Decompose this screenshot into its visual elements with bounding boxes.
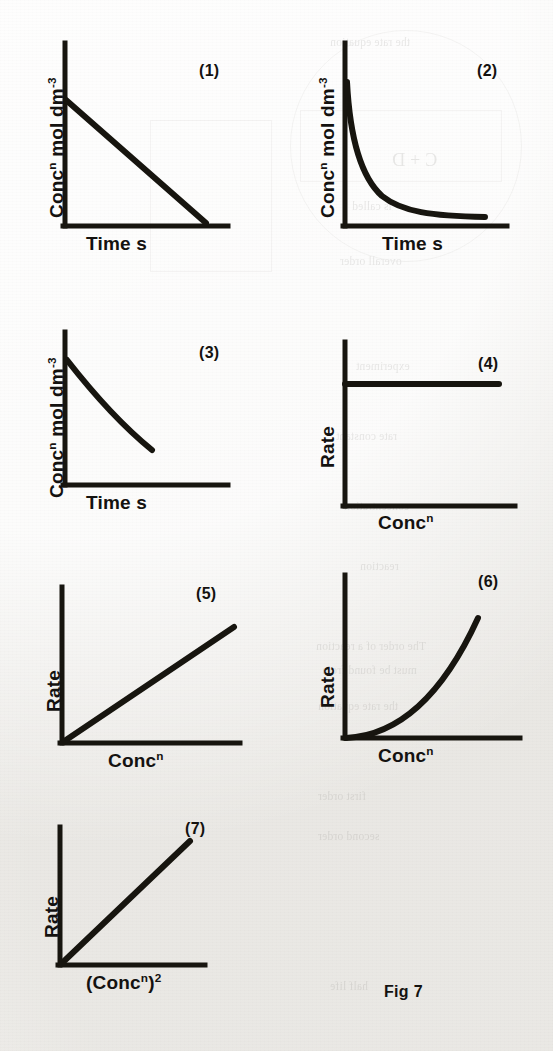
y-axis-label-units-sup: -3 bbox=[316, 77, 329, 88]
y-axis-label-text: Conc bbox=[317, 170, 338, 218]
series-line-3 bbox=[67, 360, 152, 450]
x-axis-label-2: Time s bbox=[382, 233, 443, 255]
x-axis-label-6: Concn bbox=[378, 745, 434, 767]
panel-tag-4: (4) bbox=[478, 355, 498, 373]
x-axis-label-text: Conc bbox=[108, 750, 156, 771]
series-line-1 bbox=[66, 100, 206, 223]
y-axis-label-text: Conc bbox=[46, 170, 67, 218]
x-axis-label-pow: 2 bbox=[155, 971, 162, 984]
y-axis-label-sup: n bbox=[45, 442, 58, 449]
y-axis-label-text: Conc bbox=[46, 450, 67, 498]
panel-tag-1: (1) bbox=[199, 62, 219, 80]
x-axis-label-text: Conc bbox=[378, 745, 426, 766]
y-axis-label-units-sup: -3 bbox=[45, 77, 58, 88]
x-axis-label-sup: n bbox=[426, 511, 433, 524]
y-axis-label-units: mol dm bbox=[317, 88, 338, 162]
plot-panel-4 bbox=[270, 300, 553, 530]
panel-tag-5: (5) bbox=[196, 585, 216, 603]
y-axis-label-units: mol dm bbox=[46, 88, 67, 162]
y-axis-label-sup: n bbox=[316, 162, 329, 169]
x-axis-label-7: (Concn)2 bbox=[86, 972, 162, 994]
figure-caption: Fig 7 bbox=[384, 983, 423, 1001]
panel-tag-3: (3) bbox=[199, 344, 219, 362]
x-axis-label-open: (Conc bbox=[86, 972, 141, 993]
y-axis-label-sup: n bbox=[45, 162, 58, 169]
x-axis-label-sup: n bbox=[426, 744, 433, 757]
plot-panel-6 bbox=[270, 530, 553, 770]
y-axis-label-3: Concn mol dm-3 bbox=[46, 357, 68, 498]
plot-panel-7 bbox=[0, 790, 280, 1000]
kinetics-figure: Concn mol dm-3 Time s (1) Concn mol dm-3… bbox=[0, 0, 553, 1051]
y-axis-label-5: Rate bbox=[43, 670, 65, 712]
series-line-2 bbox=[347, 82, 485, 217]
y-axis-label-units-sup: -3 bbox=[45, 357, 58, 368]
x-axis-label-5: Concn bbox=[108, 750, 164, 772]
panel-tag-2: (2) bbox=[477, 62, 497, 80]
panel-tag-7: (7) bbox=[185, 820, 205, 838]
y-axis-label-units: mol dm bbox=[46, 368, 67, 442]
series-line-7 bbox=[61, 841, 190, 964]
y-axis-label-1: Concn mol dm-3 bbox=[46, 77, 68, 218]
y-axis-label-6: Rate bbox=[317, 666, 339, 708]
series-line-5 bbox=[63, 627, 234, 742]
panel-tag-6: (6) bbox=[478, 573, 498, 591]
x-axis-label-3: Time s bbox=[86, 492, 147, 514]
y-axis-label-2: Concn mol dm-3 bbox=[317, 77, 339, 218]
x-axis-label-sup: n bbox=[156, 749, 163, 762]
plot-panel-5 bbox=[0, 530, 270, 770]
x-axis-label-1: Time s bbox=[86, 233, 147, 255]
y-axis-label-7: Rate bbox=[41, 896, 63, 938]
series-line-6 bbox=[346, 618, 478, 738]
y-axis-label-4: Rate bbox=[317, 426, 339, 468]
